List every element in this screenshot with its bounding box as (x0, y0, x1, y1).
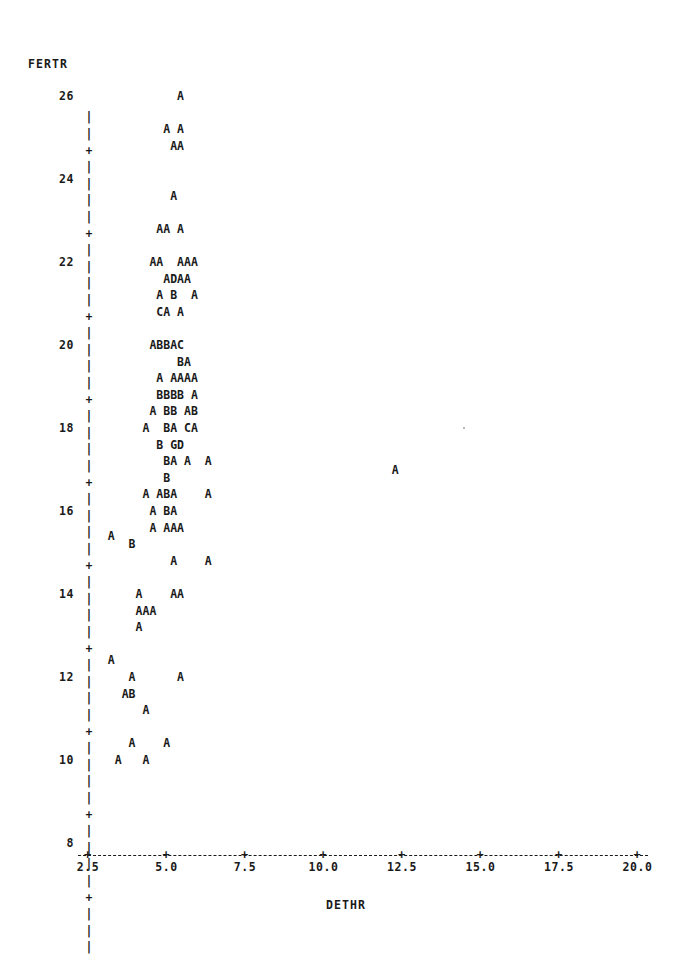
y-axis-tick-label: 16 (40, 506, 74, 518)
data-point-row: BBBB A (94, 390, 198, 402)
y-axis-title: FERTR (28, 57, 68, 71)
y-axis-tick-label: 18 (40, 423, 74, 435)
data-point-row: B GD (94, 440, 184, 452)
x-axis-tick-label: 5.0 (144, 862, 190, 874)
data-point-row: A A (94, 738, 170, 750)
data-point-row: A A (94, 556, 212, 568)
y-axis-spine-char: | (84, 677, 94, 689)
y-axis-spine-char: | (84, 776, 94, 788)
y-axis-tick-label: 12 (40, 672, 74, 684)
scan-artifact-speck (463, 427, 465, 429)
data-point-row: A A (94, 124, 184, 136)
y-axis-tick-label: 24 (40, 174, 74, 186)
data-point-row: AA A (94, 224, 184, 236)
y-axis-spine-char: | (84, 212, 94, 224)
y-axis-tick-mark: + (84, 478, 94, 490)
y-axis-spine-char: | (84, 511, 94, 523)
y-axis-spine-char: | (84, 793, 94, 805)
data-point-row: A ABA A (94, 489, 212, 501)
y-axis-spine-char: | (84, 527, 94, 539)
y-axis-tick-label: 14 (40, 589, 74, 601)
x-axis-tick-label: 20.0 (615, 862, 661, 874)
y-axis-tick-label: 26 (40, 91, 74, 103)
y-axis-spine-char: | (84, 693, 94, 705)
data-point-row: A A (94, 755, 149, 767)
data-point-row: A BB AB (94, 406, 198, 418)
y-axis-spine-char: | (84, 610, 94, 622)
y-axis-spine-char: | (84, 743, 94, 755)
character-plot: FERTR ||+||||+||||+||||+||||+||||+||||+|… (0, 0, 692, 960)
data-point-row: A AAAA (94, 373, 198, 385)
y-axis-spine-char: | (84, 195, 94, 207)
data-point-row: A (94, 622, 142, 634)
data-point-row: A B A (94, 290, 198, 302)
y-axis-spine-char: | (84, 660, 94, 672)
y-axis-spine-char: | (84, 876, 94, 888)
y-axis-tick-mark: + (84, 727, 94, 739)
y-axis-spine-char: | (84, 461, 94, 473)
data-point-row: A (94, 655, 115, 667)
y-axis-spine-char: | (84, 627, 94, 639)
data-point-row: A (94, 705, 149, 717)
y-axis-spine-char: | (84, 295, 94, 307)
y-axis-tick-label: 20 (40, 340, 74, 352)
data-point-row: AA (94, 141, 184, 153)
y-axis-spine-char: | (84, 162, 94, 174)
y-axis-spine-char: | (84, 411, 94, 423)
y-axis-tick-label: 22 (40, 257, 74, 269)
data-point-row: A BA CA (94, 423, 198, 435)
data-point-row: A AA (94, 589, 184, 601)
data-point-row: A (94, 91, 184, 103)
y-axis-spine-char: | (84, 129, 94, 141)
y-axis-tick-label: 8 (40, 838, 74, 850)
data-point-row: CA A (94, 307, 184, 319)
y-axis-spine-char: | (84, 262, 94, 274)
data-point-row: A BA (94, 506, 177, 518)
y-axis-tick-mark: + (84, 644, 94, 656)
data-point-row: ADAA (94, 274, 191, 286)
x-axis-title: DETHR (0, 898, 692, 912)
data-point-row: AA AAA (94, 257, 198, 269)
y-axis-spine-char: | (84, 494, 94, 506)
y-axis-spine-char: | (84, 361, 94, 373)
y-axis-spine-char: | (84, 760, 94, 772)
y-axis-spine-char: | (84, 245, 94, 257)
data-point-row: A A (94, 672, 184, 684)
y-axis-spine-char: | (84, 710, 94, 722)
y-axis-spine-char: | (84, 444, 94, 456)
data-point-row: A (94, 465, 399, 477)
y-axis-spine-char: | (84, 826, 94, 838)
y-axis-tick-label: 10 (40, 755, 74, 767)
y-axis-spine-char: | (84, 544, 94, 556)
y-axis-spine-char: | (84, 926, 94, 938)
y-axis-tick-mark: + (84, 312, 94, 324)
x-axis-tick-label: 10.0 (301, 862, 347, 874)
y-axis-tick-mark: + (84, 810, 94, 822)
x-axis-tick-label: 12.5 (379, 862, 425, 874)
y-axis-tick-mark: + (84, 561, 94, 573)
y-axis-spine-char: | (84, 378, 94, 390)
y-axis-spine: ||+||||+||||+||||+||||+||||+||||+||||+||… (84, 58, 94, 848)
data-point-row: B (94, 539, 136, 551)
data-point-row: BA (94, 357, 191, 369)
data-point-row: ABBAC (94, 340, 184, 352)
y-axis-spine-char: | (84, 594, 94, 606)
y-axis-spine-char: | (84, 942, 94, 954)
y-axis-spine-char: | (84, 112, 94, 124)
x-axis-tick-label: 15.0 (458, 862, 504, 874)
y-axis-tick-mark: + (84, 229, 94, 241)
x-axis-tick-label: 7.5 (222, 862, 268, 874)
x-axis-tick-label: 2.5 (65, 862, 111, 874)
y-axis-spine-char: | (84, 278, 94, 290)
data-point-row: AB (94, 689, 136, 701)
y-axis-spine-char: | (84, 328, 94, 340)
y-axis-tick-mark: + (84, 146, 94, 158)
y-axis-spine-char: | (84, 179, 94, 191)
y-axis-spine-char: | (84, 428, 94, 440)
data-point-row: A (94, 191, 177, 203)
y-axis-spine-char: | (84, 577, 94, 589)
y-axis-spine-char: | (84, 345, 94, 357)
x-axis-tick-label: 17.5 (536, 862, 582, 874)
y-axis-tick-mark: + (84, 395, 94, 407)
data-point-row: AAA (94, 606, 156, 618)
